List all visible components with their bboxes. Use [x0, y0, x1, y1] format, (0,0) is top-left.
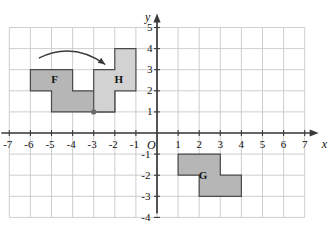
rotation-arrow-curve	[39, 51, 105, 64]
y-tick-label-neg4: -4	[141, 212, 150, 223]
y-axis-arrowhead	[153, 14, 160, 23]
y-tick-label-2: 2	[147, 85, 153, 96]
pivot-dot	[91, 109, 96, 114]
x-tick-label-neg5: -5	[45, 139, 54, 150]
x-tick-label-2: 2	[196, 139, 202, 150]
x-axis-label: x	[322, 138, 327, 150]
x-tick-label-5: 5	[260, 139, 266, 150]
y-tick-label-5: 5	[147, 22, 153, 33]
x-tick-label-6: 6	[281, 139, 287, 150]
shape-label-f: F	[51, 74, 58, 85]
x-tick-label-neg7: -7	[3, 139, 12, 150]
y-tick-label-neg2: -2	[141, 170, 150, 181]
x-tick-label-neg1: -1	[130, 139, 139, 150]
x-tick-label-neg6: -6	[24, 139, 33, 150]
axes-layer	[1, 14, 318, 218]
y-tick-label-neg3: -3	[141, 191, 150, 202]
y-tick-label-1: 1	[147, 106, 153, 117]
plot-svg	[0, 0, 332, 225]
y-axis-label: y	[145, 11, 150, 23]
x-tick-label-neg4: -4	[67, 139, 76, 150]
shape-label-h: H	[114, 74, 123, 85]
x-tick-label-3: 3	[218, 139, 224, 150]
x-tick-label-neg2: -2	[109, 139, 118, 150]
x-tick-label-7: 7	[302, 139, 308, 150]
x-axis-arrowhead	[310, 129, 319, 136]
shape-g	[178, 154, 241, 196]
x-tick-label-neg3: -3	[88, 139, 97, 150]
coordinate-plane-figure: -7-6-5-4-3-2-1123456754321-1-2-3-4OxyFHG	[0, 0, 332, 225]
x-tick-label-1: 1	[175, 139, 181, 150]
y-tick-label-3: 3	[147, 64, 153, 75]
y-tick-label-4: 4	[147, 43, 153, 54]
x-tick-label-4: 4	[239, 139, 245, 150]
origin-label: O	[147, 139, 156, 151]
shape-label-g: G	[199, 170, 208, 181]
rotation-arrow-head	[98, 58, 106, 65]
